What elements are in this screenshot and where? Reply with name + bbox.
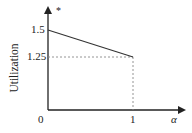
utilization-line (48, 30, 133, 57)
y-tick-1-5: 1.5 (31, 24, 45, 35)
y-tick-1-25: 1.25 (27, 51, 46, 62)
y-axis-marker: * (56, 5, 61, 16)
x-axis-label: α (171, 114, 177, 125)
y-axis-label: Utilization (8, 43, 20, 92)
chart-canvas (0, 0, 192, 133)
x-tick-1: 1 (130, 114, 136, 125)
x-tick-origin: 0 (38, 114, 44, 125)
